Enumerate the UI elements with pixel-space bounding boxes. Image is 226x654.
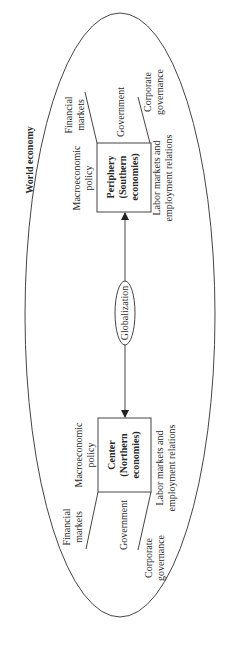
svg-text:(Southern: (Southern	[117, 155, 129, 198]
svg-text:(Northern: (Northern	[118, 433, 130, 477]
svg-text:governance: governance	[154, 68, 165, 115]
center-financial-line	[86, 492, 98, 549]
center-financial-label: Financial markets	[61, 508, 84, 545]
center-corporate-label: Corporate governance	[143, 534, 166, 581]
periphery-financial-line	[85, 92, 97, 143]
svg-text:markets: markets	[75, 99, 86, 131]
svg-text:employment relations: employment relations	[163, 134, 174, 221]
svg-text:Corporate: Corporate	[143, 537, 154, 578]
center-government-label: Government	[118, 500, 129, 550]
svg-text:Macroeconomic: Macroeconomic	[71, 145, 82, 211]
svg-text:Corporate: Corporate	[142, 71, 153, 112]
svg-text:employment relations: employment relations	[166, 424, 177, 511]
center-labor-label: Labor markets and employment relations	[154, 424, 177, 511]
svg-text:Financial: Financial	[61, 508, 72, 545]
svg-text:policy: policy	[85, 443, 96, 468]
svg-text:policy: policy	[83, 166, 94, 191]
periphery-label: Periphery (Southern economies)	[105, 153, 141, 200]
svg-text:markets: markets	[73, 511, 84, 543]
world-economy-title: World economy	[24, 126, 35, 194]
periphery-macro-label: Macroeconomic policy	[71, 145, 94, 211]
periphery-financial-label: Financial markets	[63, 96, 86, 133]
svg-text:Center: Center	[106, 440, 117, 470]
svg-text:Labor markets and: Labor markets and	[154, 431, 165, 506]
periphery-labor-label: Labor markets and employment relations	[151, 134, 174, 221]
svg-text:economies): economies)	[130, 431, 142, 478]
svg-text:economies): economies)	[129, 153, 141, 200]
svg-text:Macroeconomic: Macroeconomic	[73, 422, 84, 488]
center-macro-label: Macroeconomic policy	[73, 422, 96, 488]
svg-text:governance: governance	[155, 534, 166, 581]
globalization-label: Globalization	[119, 286, 130, 340]
periphery-government-label: Government	[115, 87, 126, 137]
periphery-corporate-label: Corporate governance	[142, 68, 165, 115]
svg-text:Periphery: Periphery	[105, 156, 116, 199]
svg-text:Labor markets and: Labor markets and	[151, 141, 162, 216]
svg-text:Financial: Financial	[63, 96, 74, 133]
diagram-canvas: World economy Periphery (Southern econom…	[0, 0, 226, 654]
